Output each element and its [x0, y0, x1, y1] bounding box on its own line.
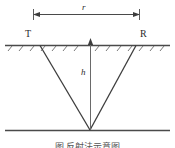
hatch-tick [30, 46, 34, 51]
hatch-tick [117, 46, 121, 51]
ray-path-upgoing [90, 46, 136, 131]
hatch-tick [52, 46, 56, 51]
dimension-line-r [33, 9, 140, 20]
arrowhead-left-icon [33, 12, 40, 17]
label-receiver-R: R [140, 29, 147, 39]
ray-path-downgoing [40, 46, 90, 131]
label-depth-h: h [81, 68, 86, 77]
arrowhead-up-icon [88, 38, 93, 45]
figure-caption: 图 反射法示意图 [0, 140, 175, 148]
hatch-tick [150, 46, 154, 51]
hatch-tick [106, 46, 110, 51]
label-distance-r: r [82, 3, 86, 12]
hatch-tick [128, 46, 132, 51]
hatch-tick [8, 46, 12, 51]
ground-hatching [8, 46, 164, 51]
hatch-tick [160, 46, 164, 51]
hatch-tick [63, 46, 67, 51]
hatch-tick [74, 46, 78, 51]
hatch-tick [95, 46, 99, 51]
depth-indicator-h [88, 38, 93, 130]
figure-container: r T R h 图 反射法示意图 [0, 0, 175, 148]
hatch-tick [19, 46, 23, 51]
label-transmitter-T: T [25, 29, 31, 39]
hatch-tick [139, 46, 143, 51]
arrowhead-right-icon [133, 12, 140, 17]
seismic-reflection-diagram [0, 0, 175, 148]
